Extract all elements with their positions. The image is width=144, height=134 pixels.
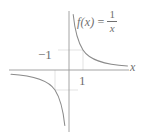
guide-lines-negative bbox=[55, 70, 78, 90]
formula-equals-sign: = bbox=[97, 16, 104, 28]
plot-canvas bbox=[0, 0, 144, 134]
x-axis-label: x bbox=[130, 61, 135, 73]
function-plot-figure: −1 1 x f(x) = 1 x bbox=[0, 0, 144, 134]
y-tick-label-negative-one: −1 bbox=[38, 48, 52, 61]
function-formula-label: f(x) = 1 x bbox=[77, 9, 117, 34]
x-tick-label-one: 1 bbox=[79, 74, 86, 87]
guide-lines-positive bbox=[58, 50, 83, 70]
formula-fraction: 1 x bbox=[107, 9, 117, 34]
formula-denominator: x bbox=[108, 22, 117, 34]
curve-branch-negative bbox=[11, 74, 65, 125]
formula-function-name: f(x) bbox=[77, 16, 94, 28]
formula-numerator: 1 bbox=[107, 9, 117, 21]
